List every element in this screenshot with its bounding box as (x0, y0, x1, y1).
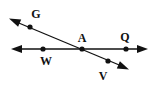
label-a: A (78, 31, 87, 45)
label-q: Q (120, 30, 129, 44)
point-a (79, 46, 84, 51)
arrow-right-icon (137, 45, 148, 53)
label-v: V (99, 69, 108, 83)
label-w: W (40, 54, 52, 68)
arrow-upper-left-icon (9, 19, 21, 27)
point-w (40, 46, 45, 51)
point-g (27, 24, 32, 29)
point-v (105, 58, 110, 63)
arrow-lower-right-icon (117, 61, 129, 69)
geometry-diagram: G W A Q V (0, 0, 153, 86)
label-g: G (31, 7, 40, 21)
point-q (123, 46, 128, 51)
arrow-left-icon (11, 45, 22, 53)
